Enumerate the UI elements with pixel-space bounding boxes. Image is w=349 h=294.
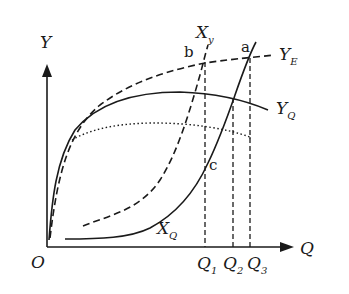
curve-xq bbox=[65, 42, 256, 239]
diagram-svg bbox=[0, 0, 349, 294]
curve-label-yq: YQ bbox=[276, 100, 295, 117]
tick-label-q3: Q3 bbox=[247, 255, 267, 272]
curve-label-ye: YE bbox=[279, 46, 298, 63]
curve-xy bbox=[83, 45, 208, 226]
x-axis bbox=[47, 242, 294, 252]
x-axis-label: Q bbox=[300, 240, 314, 257]
point-label-a: a bbox=[241, 40, 250, 55]
point-label-b: b bbox=[184, 45, 194, 60]
y-axis-arrow-icon bbox=[42, 64, 52, 77]
tick-label-q2: Q2 bbox=[223, 255, 243, 272]
origin-label: O bbox=[31, 254, 45, 271]
guide-lines bbox=[205, 58, 250, 247]
x-axis-arrow-icon bbox=[280, 242, 294, 252]
point-label-c: c bbox=[209, 158, 217, 173]
curve-label-xy: Xy bbox=[196, 24, 214, 41]
curve-label-xq: XQ bbox=[157, 220, 177, 237]
curve-ye bbox=[50, 55, 275, 238]
diagram-canvas: Y Q O Q1 Q2 Q3 Xy YE YQ XQ a b c bbox=[0, 0, 349, 294]
y-axis-label: Y bbox=[40, 34, 51, 51]
tick-label-q1: Q1 bbox=[197, 255, 217, 272]
